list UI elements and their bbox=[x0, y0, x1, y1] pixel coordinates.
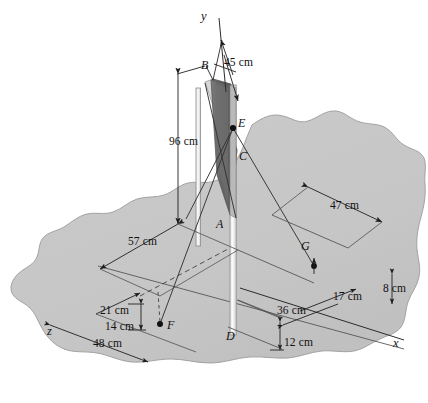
dimension-8cm-label: 8 cm bbox=[383, 283, 406, 295]
x-axis-label: x bbox=[393, 337, 399, 350]
point-d-label: D bbox=[226, 330, 235, 342]
dimension-96cm-label: 96 cm bbox=[169, 136, 198, 148]
point-b-label: B bbox=[201, 59, 208, 71]
dimension-48cm-label: 48 cm bbox=[93, 338, 122, 350]
point-a-label: A bbox=[216, 218, 223, 230]
dimension-12cm-label: 12 cm bbox=[284, 337, 313, 349]
z-axis-label: z bbox=[47, 325, 52, 338]
dimension-14cm-label: 14 cm bbox=[105, 321, 134, 333]
dimension-45cm-label: 45 cm bbox=[224, 57, 253, 69]
figure-canvas bbox=[0, 0, 428, 403]
point-c-label: C bbox=[239, 150, 247, 162]
point-f-dot bbox=[157, 321, 163, 327]
point-g-label: G bbox=[301, 240, 310, 252]
cable-b-y bbox=[213, 40, 222, 80]
dimension-21cm-label: 21 cm bbox=[100, 305, 129, 317]
point-f-label: F bbox=[167, 319, 174, 331]
point-e-dot bbox=[230, 125, 236, 131]
y-axis-label: y bbox=[201, 10, 207, 23]
dimension-57cm-label: 57 cm bbox=[128, 236, 157, 248]
dimension-47cm-label: 47 cm bbox=[330, 200, 359, 212]
dimension-17cm-label: 17 cm bbox=[333, 291, 362, 303]
dimension-36cm-label: 36 cm bbox=[277, 305, 306, 317]
statics-figure: y x z A B C D E F G 45 cm 96 cm 57 cm 47… bbox=[0, 0, 428, 403]
point-e-label: E bbox=[238, 117, 245, 129]
